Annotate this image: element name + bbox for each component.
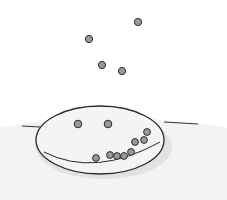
pea-eye (74, 120, 82, 128)
pea-smile (141, 137, 148, 144)
pea-smile (114, 153, 121, 160)
pea-falling (98, 61, 105, 68)
pea-smile (144, 129, 151, 136)
pea-falling (134, 18, 141, 25)
pea-falling (85, 35, 92, 42)
pea-smile (93, 155, 100, 162)
pea-smile (132, 139, 139, 146)
pea-smile (107, 152, 114, 159)
pea-falling (118, 67, 125, 74)
pea-smile (121, 153, 128, 160)
falling-peas (85, 18, 141, 74)
pea-eye (104, 120, 112, 128)
pea-smile (128, 149, 135, 156)
illustration (0, 0, 227, 200)
